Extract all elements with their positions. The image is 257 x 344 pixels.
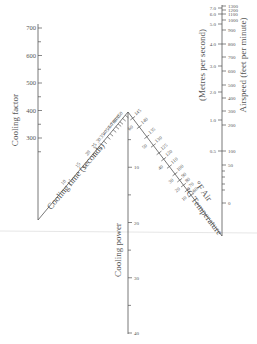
cooling-factor-tick-label: 700 [26, 24, 36, 31]
cooling-factor-title: Cooling factor [10, 94, 20, 146]
cooling-power-tick-label: 20 [134, 221, 140, 226]
temperature-f-tick-label: 120 [164, 148, 173, 157]
cooling-factor-scale: 700600500400300 Cooling factor [10, 24, 42, 220]
airspeed-fpm-tick-label: 700 [228, 55, 236, 60]
airspeed-fpm-tick-label: 1100 [228, 12, 238, 17]
temperature-f-tick [137, 125, 142, 129]
airspeed-fpm-tick-label: 500 [228, 83, 236, 88]
cooling-time-tick [110, 134, 113, 137]
temperature-f-tick [177, 178, 182, 182]
airspeed-ms-tick-label: 1.0 [210, 118, 217, 123]
airspeed-fpm-title: Airspeed (feet per minute) [238, 17, 248, 112]
temperature-c-tick-label: 40 [157, 164, 164, 171]
cooling-power-title: Cooling power [113, 223, 123, 277]
temperature-f-tick [144, 135, 149, 139]
temperature-c-tick-label: 20 [174, 186, 181, 193]
airspeed-fpm-tick-label: 50 [228, 163, 234, 168]
cooling-power-tick-label: 40 [134, 331, 140, 336]
airspeed-scale: 7.06.05.04.03.02.01.00.51300120011001000… [197, 4, 248, 236]
airspeed-fpm-tick-label: 400 [228, 96, 236, 101]
temperature-c-tick-label: 50 [141, 143, 148, 150]
airspeed-fpm-tick-label: 800 [228, 42, 236, 47]
nomogram: 700600500400300 Cooling factor 150100807… [0, 0, 257, 344]
airspeed-ms-tick-label: 7.0 [210, 6, 217, 11]
cooling-time-tick [123, 118, 126, 121]
temperature-f-tick-label: 140 [140, 116, 149, 125]
temperature-f-tick [173, 172, 178, 176]
airspeed-ms-tick-label: 3.0 [210, 64, 217, 69]
temperature-f-tick-label: 135 [147, 126, 156, 135]
cooling-time-tick [120, 122, 123, 125]
cooling-power-tick-label: 10 [134, 165, 140, 170]
airspeed-fpm-tick-label: 1000 [228, 18, 239, 23]
temperature-scale: 1451401351301251201101009080706060504030… [127, 108, 225, 237]
cooling-power-scale: 10203040 Cooling power [113, 112, 140, 336]
cooling-time-tick [116, 127, 119, 130]
temperature-f-tick [130, 116, 135, 120]
cooling-time-tick [107, 137, 110, 140]
cooling-factor-tick-label: 400 [26, 107, 36, 114]
temperature-c-tick-label: 30 [167, 177, 174, 184]
cooling-time-title: Cooling time (seconds) [45, 141, 107, 212]
airspeed-fpm-tick-label: 900 [228, 28, 236, 33]
airspeed-fpm-tick-label: 100 [228, 149, 236, 154]
cooling-factor-tick-label: 600 [26, 52, 36, 59]
airspeed-ms-tick-label: 5.0 [210, 22, 217, 27]
airspeed-ms-tick-label: 6.0 [210, 12, 217, 17]
cooling-time-scale: 1501008070605040353025201510 Cooling tim… [38, 110, 128, 220]
airspeed-ms-title: (Metres per second) [197, 29, 207, 101]
temperature-f-tick [161, 157, 166, 161]
airspeed-ms-tick-label: 0.5 [210, 149, 217, 154]
airspeed-fpm-tick-label: 200 [228, 123, 236, 128]
temperature-f-tick [167, 165, 172, 169]
cooling-power-tick-label: 30 [134, 276, 140, 281]
temperature-f-tick [181, 183, 186, 187]
temperature-f-tick-label: 110 [170, 156, 179, 165]
cooling-factor-tick-label: 300 [26, 134, 36, 141]
airspeed-fpm-tick-label: 600 [228, 69, 236, 74]
airspeed-ms-tick-label: 2.0 [210, 90, 217, 95]
cooling-time-tick [113, 130, 116, 133]
cooling-factor-tick-label: 500 [26, 79, 36, 86]
cooling-time-tick [104, 141, 107, 144]
airspeed-fpm-tick-label: 300 [228, 109, 236, 114]
airspeed-fpm-tick-label: 0 [228, 201, 231, 206]
temperature-f-tick [157, 151, 162, 155]
temperature-f-tick-label: 130 [154, 135, 163, 144]
temperature-f-tick-label: 145 [133, 108, 142, 117]
airspeed-ms-tick-label: 4.0 [210, 42, 217, 47]
temperature-f-tick [151, 144, 156, 148]
cooling-time-tick [118, 124, 121, 127]
